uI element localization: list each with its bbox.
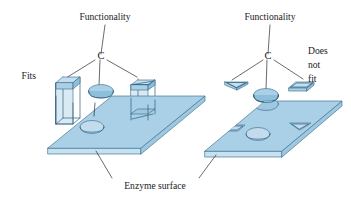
right-panel: Functionality C Does not fit bbox=[205, 11, 342, 157]
left-surface-holes bbox=[80, 121, 104, 134]
left-functionality-label: Functionality bbox=[79, 11, 130, 22]
circular-plug-substrate bbox=[254, 89, 279, 103]
enzyme-surface-figure: Fits Functionality C bbox=[0, 0, 351, 197]
fits-label-group: Fits bbox=[22, 70, 37, 81]
not-label: not bbox=[308, 59, 321, 70]
enzyme-surface-label: Enzyme surface bbox=[124, 180, 186, 191]
left-c-label: C bbox=[97, 50, 104, 61]
fits-label: Fits bbox=[22, 70, 37, 81]
right-functionality-label: Functionality bbox=[244, 11, 295, 22]
flat-triangle-substrate bbox=[225, 82, 248, 90]
figure-canvas: Fits Functionality C bbox=[0, 0, 351, 197]
enzyme-surface-callout: Enzyme surface bbox=[96, 151, 216, 191]
fit-label: fit bbox=[308, 73, 317, 84]
does-label: Does bbox=[308, 45, 328, 56]
circular-plug-substrate bbox=[89, 85, 114, 99]
left-panel: Fits Functionality C bbox=[22, 11, 205, 154]
right-c-label: C bbox=[264, 50, 271, 61]
square-prism-substrate bbox=[56, 77, 80, 124]
